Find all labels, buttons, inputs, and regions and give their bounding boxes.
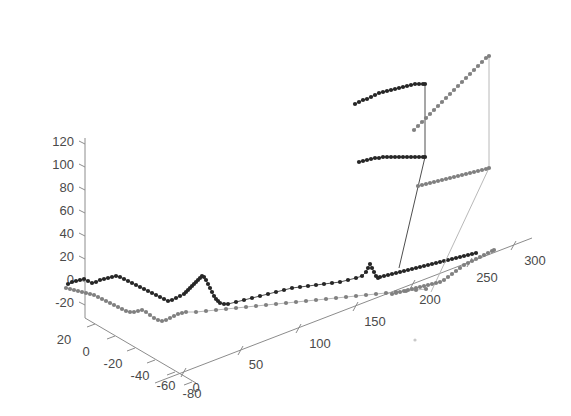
z-tick-label-60: 60 (60, 203, 74, 218)
z-tick-40 (79, 233, 85, 236)
figure-3d-scatter-plot: 120 100 80 60 40 20 0 -20 20 0 -20 -40 -… (0, 0, 571, 416)
z-tick-label-40: 40 (60, 226, 74, 241)
plot-canvas: 120 100 80 60 40 20 0 -20 20 0 -20 -40 -… (0, 0, 571, 416)
y-tick-0 (107, 336, 115, 339)
dark-trajectory-descent (399, 157, 425, 268)
z-tick-label-120: 120 (52, 134, 74, 149)
z-tick-80 (79, 187, 85, 190)
x-tick-label-150: 150 (364, 314, 386, 329)
x-tick-label-0: 0 (192, 380, 199, 395)
z-tick-label-100: 100 (52, 157, 74, 172)
dark-trajectory-baseline-markers (66, 251, 478, 306)
z-tick-label-20: 20 (60, 249, 74, 264)
y-tick-neg20 (127, 348, 135, 351)
z-tick-120 (79, 141, 85, 144)
dark-trajectory-upper-markers (353, 82, 427, 164)
dark-trajectory-upper-upper-step (355, 84, 425, 104)
x-tick-label-100: 100 (309, 336, 331, 351)
y-tick-label-neg60: -60 (157, 378, 176, 393)
y-tick-neg80 (184, 382, 192, 385)
y-tick-neg40 (147, 360, 155, 363)
axis-y: 20 0 -20 -40 -60 -80 (57, 318, 202, 401)
z-tick-label-80: 80 (60, 180, 74, 195)
light-trajectory-upper-markers (412, 54, 491, 188)
axis-x: 0 50 100 150 200 250 300 (155, 238, 546, 395)
dark-trajectory-baseline-path (68, 253, 476, 304)
x-tick-label-200: 200 (419, 292, 441, 307)
y-tick-label-0: 0 (82, 344, 89, 359)
z-tick-20 (79, 256, 85, 259)
isolated-faint-marker (413, 338, 416, 341)
z-tick-60 (79, 210, 85, 213)
y-tick-neg60 (167, 372, 175, 375)
y-tick-label-neg20: -20 (104, 356, 123, 371)
y-tick-label-20: 20 (57, 332, 71, 347)
z-tick-label-neg20: -20 (55, 295, 74, 310)
x-tick-label-250: 250 (476, 270, 498, 285)
y-tick-label-neg40: -40 (131, 368, 150, 383)
y-tick-20 (87, 324, 95, 327)
z-tick-100 (79, 164, 85, 167)
z-tick-neg20 (79, 302, 85, 305)
x-tick-label-50: 50 (249, 357, 263, 372)
x-tick-label-300: 300 (524, 253, 546, 268)
